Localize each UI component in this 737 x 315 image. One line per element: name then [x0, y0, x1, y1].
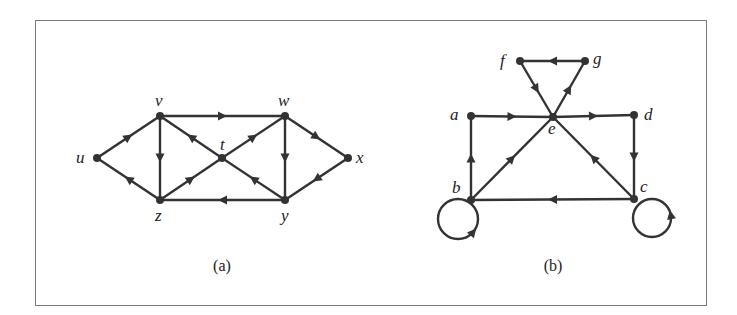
arrow-icon-d-c — [630, 153, 639, 162]
node-label-e: e — [548, 119, 556, 138]
arrow-icon-g-f — [548, 57, 557, 66]
node-x — [344, 154, 352, 162]
node-c — [630, 195, 638, 203]
node-v — [156, 112, 164, 120]
node-label-g: g — [593, 49, 602, 68]
node-label-d: d — [644, 105, 653, 124]
node-g — [581, 57, 589, 65]
node-label-a: a — [450, 105, 459, 124]
arrow-icon-a-e — [507, 112, 516, 121]
node-t — [218, 154, 226, 162]
node-label-z: z — [154, 206, 162, 225]
node-d — [630, 111, 638, 119]
node-u — [93, 154, 101, 162]
arrow-icon-y-z — [218, 196, 227, 205]
node-f — [516, 57, 524, 65]
node-z — [156, 196, 164, 204]
graph-b: fgaedbc(b) — [438, 49, 676, 275]
graph-figure: uvztwxy(a) fgaedbc(b) — [0, 0, 737, 315]
arrow-icon-c-b — [548, 195, 557, 204]
node-w — [281, 112, 289, 120]
node-label-w: w — [278, 91, 290, 110]
caption-a: (a) — [213, 257, 231, 275]
node-label-t: t — [220, 135, 226, 154]
arrow-icon-w-y — [281, 154, 290, 163]
node-label-v: v — [155, 91, 163, 110]
node-label-c: c — [640, 177, 648, 196]
node-label-b: b — [452, 178, 461, 197]
caption-b: (b) — [544, 257, 563, 275]
node-b — [467, 196, 475, 204]
arrow-icon-b-a — [467, 154, 476, 163]
arrow-icon-e-d — [589, 112, 598, 121]
loop-c — [633, 199, 671, 237]
arrow-icon-v-w — [218, 112, 227, 121]
arrow-icon-v-z — [156, 154, 165, 163]
node-a — [467, 112, 475, 120]
node-label-y: y — [279, 206, 289, 225]
node-y — [281, 196, 289, 204]
node-label-x: x — [355, 148, 364, 167]
node-label-u: u — [76, 148, 85, 167]
graph-a: uvztwxy(a) — [76, 91, 364, 275]
node-label-f: f — [500, 51, 507, 70]
loop-arrow-icon-c — [667, 210, 676, 220]
